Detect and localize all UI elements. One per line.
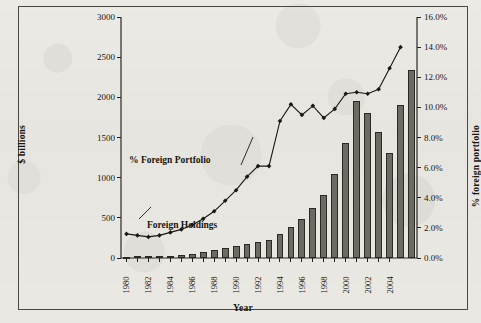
line-marker xyxy=(267,164,272,169)
line-marker xyxy=(135,233,140,238)
line-series-percent-foreign-portfolio xyxy=(19,7,469,311)
annotation-leader-line xyxy=(139,207,151,219)
line-path xyxy=(127,47,401,237)
line-marker xyxy=(146,235,151,240)
line-marker xyxy=(354,90,359,95)
line-marker xyxy=(124,232,129,237)
annotation-percent-foreign-portfolio: % Foreign Portfolio xyxy=(129,155,211,165)
annotation-leader-lines xyxy=(139,137,253,219)
line-markers xyxy=(124,45,403,239)
line-marker xyxy=(387,66,392,71)
y-axis-right-title: % foreign portfolio xyxy=(471,125,481,207)
annotation-leader-line xyxy=(241,137,253,165)
chart-canvas: $ billions % foreign portfolio Year 0500… xyxy=(19,7,467,309)
line-marker xyxy=(365,92,370,97)
line-marker xyxy=(398,45,403,50)
line-marker xyxy=(376,87,381,92)
line-marker xyxy=(168,230,173,235)
annotation-foreign-holdings: Foreign Holdings xyxy=(147,220,217,230)
figure-frame: $ billions % foreign portfolio Year 0500… xyxy=(18,6,468,310)
line-marker xyxy=(157,233,162,238)
